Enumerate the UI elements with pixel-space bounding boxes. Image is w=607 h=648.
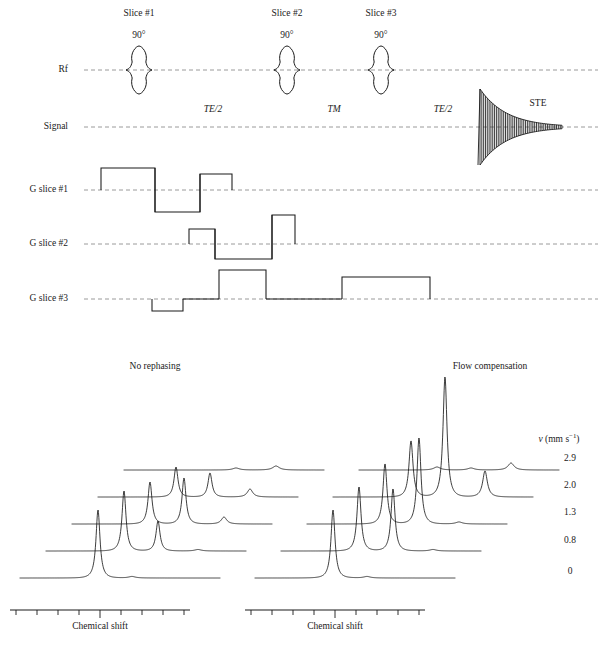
row-label-rf: Rf: [59, 65, 69, 75]
flip-angle-3: 90°: [374, 31, 387, 41]
velocity-label-4: 0: [568, 567, 573, 577]
slice-title-3: Slice #3: [366, 9, 397, 19]
velocity-label-0: 2.9: [564, 454, 576, 464]
spectra-panel-2: [255, 377, 559, 578]
echo-envelope-lower: [480, 129, 562, 165]
right-panel-title: Flow compensation: [453, 362, 528, 372]
figure-canvas: [0, 0, 607, 648]
echo-envelope-upper: [480, 89, 562, 125]
slice-title-1: Slice #1: [124, 9, 155, 19]
interval-label-3: TE/2: [434, 105, 452, 115]
velocity-axis-header: v (mm s−1): [538, 435, 579, 445]
spectra-layer: [10, 377, 559, 618]
right-chemical-shift-axis: [245, 610, 425, 618]
flip-angle-2: 90°: [280, 31, 293, 41]
gradient-slice-3-block-3: [342, 277, 430, 299]
spectrum-trace-v-0-8: [46, 491, 246, 551]
flip-angle-1: 90°: [132, 31, 145, 41]
gradient-slice-2-block-3: [272, 215, 295, 244]
left-chemical-shift-axis: [10, 610, 190, 618]
left-panel-title: No rephasing: [130, 362, 181, 372]
spectrum-trace-v-2-0: [333, 377, 533, 497]
gradient-slice-1-block-2: [155, 190, 200, 212]
gradient-slice-3-block-1: [152, 299, 183, 311]
gradient-slice-1-block-3: [200, 174, 232, 190]
spectra-panel-1: [20, 466, 324, 578]
slice-title-2: Slice #2: [272, 9, 303, 19]
row-label-g-slice-3: G slice #3: [29, 294, 68, 304]
gradient-slice-1-block-1: [101, 168, 155, 190]
velocity-label-2: 1.3: [564, 508, 576, 518]
ste-label: STE: [530, 99, 547, 109]
spectrum-trace-v-2-0: [98, 467, 298, 497]
spectrum-trace-v-1-3: [72, 478, 272, 524]
pulse-sequence-layer: [84, 46, 598, 311]
axis-label-chemical-shift-right: Chemical shift: [307, 622, 363, 632]
row-label-g-slice-1: G slice #1: [29, 185, 68, 195]
gradient-slice-3-block-2: [219, 270, 266, 299]
spectrum-trace-v-0: [255, 510, 455, 578]
gradient-slice-3: [152, 270, 430, 311]
velocity-label-3: 0.8: [564, 536, 576, 546]
figure-root: RfSignalG slice #1G slice #2G slice #3 S…: [0, 0, 607, 648]
axis-label-chemical-shift-left: Chemical shift: [72, 622, 128, 632]
row-label-g-slice-2: G slice #2: [29, 239, 68, 249]
spectrum-trace-v-0: [20, 510, 220, 578]
velocity-label-1: 2.0: [564, 481, 576, 491]
row-label-signal: Signal: [44, 122, 68, 132]
gradient-slice-2-block-1: [189, 229, 215, 244]
interval-label-2: TM: [327, 105, 340, 115]
gradient-slice-2-block-2: [215, 244, 272, 259]
interval-label-1: TE/2: [204, 105, 222, 115]
spectrum-trace-v-2-9: [124, 466, 324, 470]
stimulated-echo: [478, 89, 562, 165]
gradient-slice-2: [189, 215, 295, 259]
spectrum-trace-v-2-9: [359, 463, 559, 470]
